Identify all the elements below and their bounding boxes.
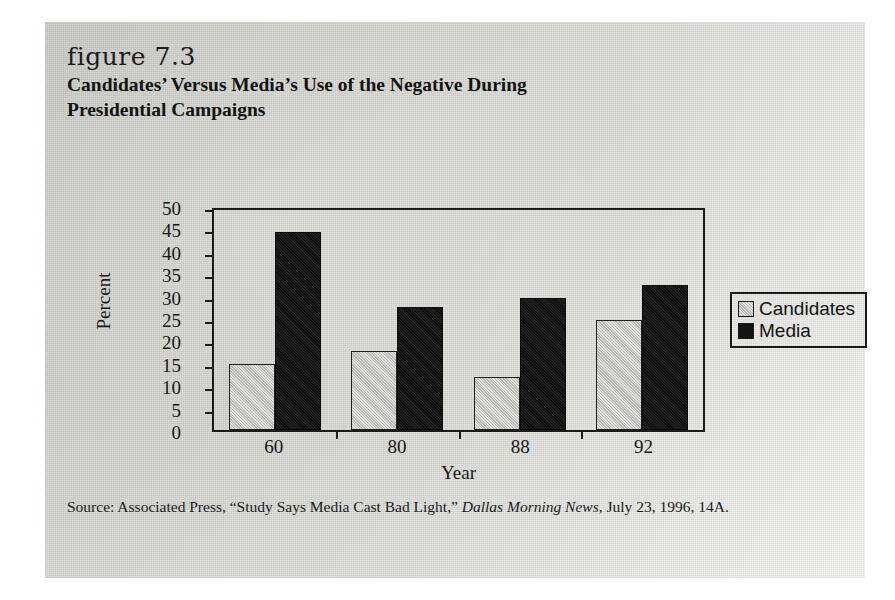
bar-groups	[214, 210, 703, 430]
legend-label: Candidates	[759, 299, 855, 318]
source-publication: Dallas Morning News	[462, 498, 599, 515]
y-tick-label: 40	[135, 243, 181, 262]
x-axis-label: Year	[212, 462, 705, 484]
x-tick-label: 60	[212, 436, 335, 458]
chart-legend: CandidatesMedia	[730, 292, 867, 348]
y-tick-label: 45	[135, 221, 181, 240]
y-axis-tick-mark	[205, 232, 214, 234]
x-tick-label: 80	[335, 436, 458, 458]
bar-group	[581, 210, 703, 430]
x-tick-label: 88	[459, 436, 582, 458]
source-suffix: , July 23, 1996, 14A.	[599, 498, 729, 515]
y-tick-label: 50	[135, 199, 181, 218]
y-tick-label: 10	[135, 378, 181, 397]
bar-group	[459, 210, 581, 430]
x-axis-tick-labels: 60808892	[212, 436, 705, 458]
y-tick-label: 30	[135, 288, 181, 307]
source-prefix: Source: Associated Press, “Study Says Me…	[67, 498, 462, 515]
bar-chart: Percent 05101520253035404550 60808892 Ye…	[85, 172, 845, 482]
y-tick-label: 15	[135, 355, 181, 374]
figure-header: figure 7.3 Candidates’ Versus Media’s Us…	[67, 44, 667, 123]
y-axis-tick-mark	[205, 277, 214, 279]
bar-media-80	[397, 307, 443, 430]
bar-candidates-60	[229, 364, 275, 430]
y-axis-tick-mark	[205, 255, 214, 257]
source-caption: Source: Associated Press, “Study Says Me…	[67, 496, 842, 517]
y-axis-tick-labels: 05101520253035404550	[135, 208, 181, 432]
y-axis-tick-mark	[205, 322, 214, 324]
legend-item-media: Media	[738, 321, 855, 340]
plot-area	[212, 208, 705, 432]
y-axis-tick-mark	[205, 389, 214, 391]
y-axis-tick-mark	[205, 210, 214, 212]
y-tick-label: 25	[135, 311, 181, 330]
y-axis-tick-mark	[205, 367, 214, 369]
bar-group	[336, 210, 458, 430]
figure-title: Candidates’ Versus Media’s Use of the Ne…	[67, 73, 537, 123]
figure-number-label: figure 7.3	[67, 44, 667, 70]
y-tick-label: 0	[135, 423, 181, 442]
x-tick-label: 92	[582, 436, 705, 458]
legend-swatch-media	[738, 323, 754, 339]
bar-candidates-88	[474, 377, 520, 430]
legend-label: Media	[759, 321, 811, 340]
bar-candidates-80	[351, 351, 397, 430]
y-axis-tick-mark	[205, 344, 214, 346]
bar-group	[214, 210, 336, 430]
y-axis-tick-mark	[205, 300, 214, 302]
y-tick-label: 5	[135, 400, 181, 419]
legend-swatch-candidates	[738, 301, 754, 317]
legend-item-candidates: Candidates	[738, 299, 855, 318]
bar-candidates-92	[596, 320, 642, 430]
y-tick-label: 20	[135, 333, 181, 352]
scanned-page: figure 7.3 Candidates’ Versus Media’s Us…	[45, 22, 865, 578]
y-axis-label: Percent	[93, 246, 115, 356]
y-tick-label: 35	[135, 266, 181, 285]
bar-media-88	[520, 298, 566, 430]
bar-media-92	[642, 285, 688, 430]
y-axis-tick-mark	[205, 412, 214, 414]
bar-media-60	[275, 232, 321, 430]
